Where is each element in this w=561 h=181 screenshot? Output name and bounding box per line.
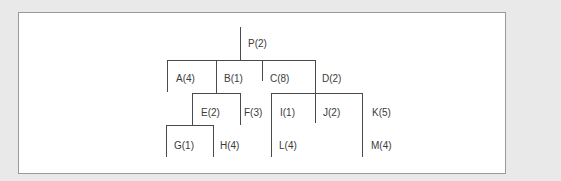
node-h: H(4) (220, 140, 239, 152)
node-j: J(2) (323, 107, 340, 119)
node-c: C(8) (270, 73, 289, 85)
node-p: P(2) (248, 38, 267, 50)
node-k: K(5) (372, 107, 391, 119)
node-m: M(4) (371, 140, 392, 152)
node-a: A(4) (176, 73, 195, 85)
node-d: D(2) (322, 73, 341, 85)
node-e: E(2) (201, 107, 220, 119)
node-b: B(1) (224, 73, 243, 85)
node-l: L(4) (279, 140, 297, 152)
node-f: F(3) (244, 107, 262, 119)
node-i: I(1) (280, 107, 295, 119)
tree-connectors (0, 0, 561, 181)
node-g: G(1) (174, 140, 194, 152)
